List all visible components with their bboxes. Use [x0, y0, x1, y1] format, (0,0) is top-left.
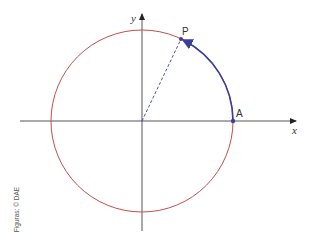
point-p	[179, 37, 183, 41]
point-a	[231, 119, 235, 123]
arc-a-to-p	[183, 40, 233, 121]
x-axis-label: x	[291, 124, 297, 136]
figure-credit: Figuras: © DAE	[13, 180, 20, 240]
y-axis-label: y	[130, 12, 136, 24]
radius-op-dashed	[142, 39, 181, 121]
point-p-label: P	[182, 26, 189, 37]
point-a-label: A	[236, 108, 243, 119]
unit-circle-diagram: y x P A	[0, 0, 315, 247]
